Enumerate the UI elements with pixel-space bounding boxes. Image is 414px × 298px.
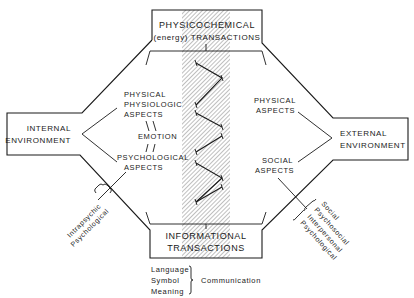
physical-aspect-line2: PHYSIOLOGIC	[124, 100, 182, 109]
external-label: EXTERNAL	[340, 129, 387, 138]
communication-brace	[189, 266, 193, 294]
transactions-label: TRANSACTIONS	[167, 243, 245, 253]
transactions-diagram: PHYSICOCHEMICAL (energy) TRANSACTIONS IN…	[0, 0, 414, 298]
emotion-label: EMOTION	[138, 132, 177, 141]
informational-label: INFORMATIONAL	[165, 231, 246, 241]
physical-aspect-line3: ASPECTS	[124, 110, 163, 119]
physical-aspect-line1: PHYSICAL	[124, 90, 166, 99]
energy-transactions-label: (energy) TRANSACTIONS	[153, 33, 260, 42]
internal-label: INTERNAL	[27, 124, 71, 133]
external-physical-line1: PHYSICAL	[254, 96, 296, 105]
environment-left-label: ENVIRONMENT	[5, 136, 71, 145]
communication-label: Communication	[201, 276, 261, 285]
symbol-item: Symbol	[151, 276, 180, 285]
external-social-line2: ASPECTS	[255, 166, 294, 175]
external-physical-line2: ASPECTS	[256, 106, 295, 115]
meaning-item: Meaning	[151, 287, 184, 296]
external-social-line1: SOCIAL	[262, 156, 293, 165]
language-item: Language	[151, 265, 189, 274]
physicochemical-label: PHYSICOCHEMICAL	[159, 20, 255, 30]
psychological-aspect-line1: PSYCHOLOGICAL	[117, 153, 189, 162]
psychological-aspect-line2: ASPECTS	[124, 163, 163, 172]
environment-right-label: ENVIRONMENT	[340, 141, 406, 150]
